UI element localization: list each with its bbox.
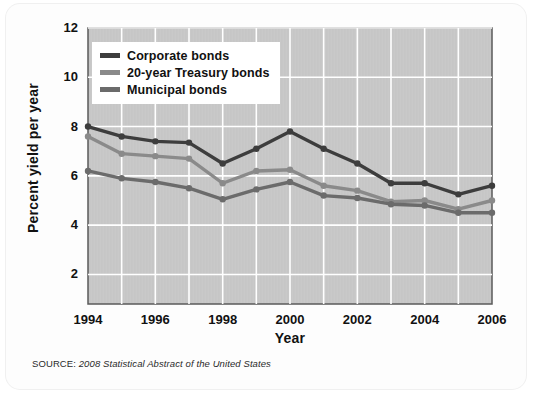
legend-item-municipal-bonds: Municipal bonds [100,81,270,98]
y-axis-title: Percent yield per year [25,63,41,253]
x-axis-title: Year [190,330,390,346]
legend-swatch-icon [100,70,120,75]
series-marker-2 [118,175,124,181]
series-marker-1 [489,197,495,203]
x-tick-label: 1996 [130,312,180,327]
series-marker-2 [320,192,326,198]
series-marker-1 [186,155,192,161]
series-marker-1 [253,168,259,174]
x-tick-label: 2002 [332,312,382,327]
series-marker-1 [219,180,225,186]
y-tick-label: 8 [48,119,78,134]
chart-legend: Corporate bonds 20-year Treasury bonds M… [92,42,280,104]
series-marker-2 [152,179,158,185]
x-tick-label: 2004 [400,312,450,327]
series-marker-2 [388,201,394,207]
legend-label: 20-year Treasury bonds [127,66,270,80]
series-marker-0 [118,133,124,139]
x-tick-label: 1994 [63,312,113,327]
x-tick-label: 2006 [467,312,517,327]
series-marker-2 [186,185,192,191]
series-marker-1 [320,183,326,189]
legend-swatch-icon [100,87,120,92]
legend-item-corporate-bonds: Corporate bonds [100,47,270,64]
series-marker-0 [354,160,360,166]
source-label: SOURCE: [32,358,79,369]
series-marker-0 [219,160,225,166]
series-marker-0 [85,123,91,129]
series-marker-0 [186,139,192,145]
series-marker-1 [152,153,158,159]
y-tick-label: 10 [48,69,78,84]
legend-label: Corporate bonds [127,49,229,63]
y-tick-label: 4 [48,217,78,232]
series-marker-2 [489,210,495,216]
y-tick-label: 2 [48,266,78,281]
legend-swatch-icon [100,53,120,58]
y-tick-label: 6 [48,168,78,183]
series-marker-2 [287,179,293,185]
series-marker-0 [388,180,394,186]
series-marker-1 [118,150,124,156]
chart-figure: 24681012 1994199619982000200220042006 Pe… [0,0,542,401]
series-marker-2 [421,202,427,208]
series-marker-2 [455,210,461,216]
y-tick-label: 12 [48,20,78,35]
source-title: 2008 Statistical Abstract of the United … [79,358,271,369]
x-tick-label: 2000 [265,312,315,327]
series-marker-0 [287,128,293,134]
series-marker-0 [489,183,495,189]
series-marker-1 [85,133,91,139]
series-marker-1 [287,166,293,172]
series-marker-1 [354,187,360,193]
series-marker-0 [253,146,259,152]
legend-label: Municipal bonds [127,83,227,97]
series-marker-2 [253,186,259,192]
series-marker-0 [152,138,158,144]
series-marker-2 [219,196,225,202]
legend-item-treasury-bonds: 20-year Treasury bonds [100,64,270,81]
series-marker-0 [421,180,427,186]
series-marker-2 [354,195,360,201]
series-marker-0 [320,146,326,152]
series-marker-2 [85,168,91,174]
x-tick-label: 1998 [198,312,248,327]
series-marker-0 [455,191,461,197]
source-note: SOURCE: 2008 Statistical Abstract of the… [32,358,271,369]
